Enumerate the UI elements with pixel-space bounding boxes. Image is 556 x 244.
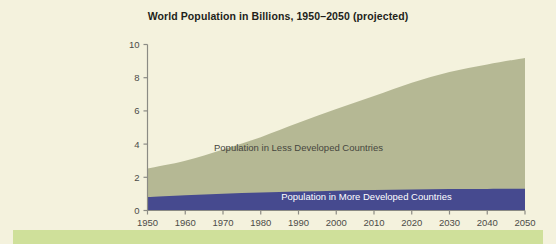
- x-tick-label: 1980: [250, 217, 271, 228]
- annotation-more-developed: Population in More Developed Countries: [281, 191, 452, 202]
- x-tick-label: 1960: [175, 217, 196, 228]
- y-tick-label: 4: [134, 139, 139, 150]
- y-tick-label: 8: [134, 72, 139, 83]
- x-tick-label: 2030: [439, 217, 460, 228]
- plot-area: 0246810195019601970198019902000201020202…: [0, 0, 556, 244]
- x-tick-label: 2040: [477, 217, 498, 228]
- y-tick-label: 0: [134, 205, 139, 216]
- x-tick-label: 2010: [363, 217, 384, 228]
- y-tick-label: 10: [129, 39, 140, 50]
- x-tick-label: 2000: [326, 217, 347, 228]
- y-tick-label: 6: [134, 105, 139, 116]
- chart-figure: World Population in Billions, 1950–2050 …: [0, 0, 556, 244]
- x-tick-label: 1990: [288, 217, 309, 228]
- x-tick-label: 1970: [212, 217, 233, 228]
- x-tick-label: 2050: [514, 217, 535, 228]
- x-tick-label: 1950: [137, 217, 158, 228]
- footer-band: [13, 230, 543, 244]
- annotation-less-developed: Population in Less Developed Countries: [214, 142, 383, 153]
- y-tick-label: 2: [134, 172, 139, 183]
- area-chart-svg: 0246810195019601970198019902000201020202…: [0, 0, 556, 244]
- x-tick-label: 2020: [401, 217, 422, 228]
- area-less-developed: [148, 58, 526, 211]
